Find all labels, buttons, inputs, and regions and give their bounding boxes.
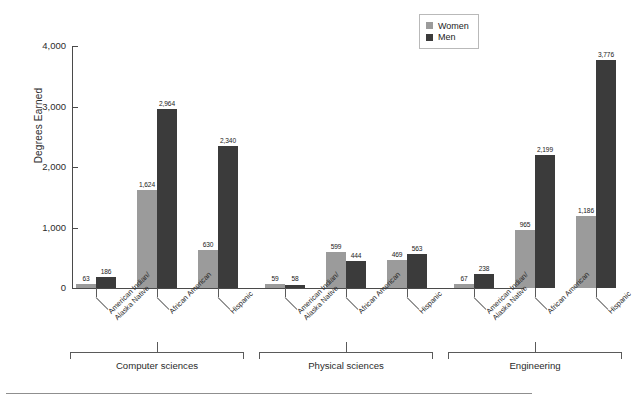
bar-men (596, 60, 616, 288)
category-label: Hispanic (418, 290, 444, 316)
category-leader-stub (96, 288, 97, 297)
bar-value-label: 2,964 (154, 100, 180, 107)
y-tick-label: 1,000 (20, 222, 66, 233)
y-tick (72, 288, 78, 289)
category-label-line: Hispanic (607, 290, 633, 316)
legend-label-men: Men (438, 32, 456, 42)
plot-area: 631861,6242,9646302,34059585994444695636… (72, 46, 524, 288)
bar-value-label: 58 (282, 275, 308, 282)
footer-caption-cropped (232, 395, 532, 401)
legend-label-women: Women (438, 21, 469, 31)
category-leader-stub (535, 288, 536, 297)
bottom-divider (6, 393, 532, 394)
bar-men (346, 261, 366, 288)
y-axis-title: Degrees Earned (33, 36, 44, 216)
category-label-line: Hispanic (229, 290, 255, 316)
y-tick-label: 2,000 (20, 161, 66, 172)
legend-swatch-men-icon (426, 34, 433, 41)
group-label: Physical sciences (266, 360, 426, 371)
bar-men (285, 285, 305, 289)
legend-item-women: Women (426, 21, 469, 31)
category-label: Hispanic (607, 290, 633, 316)
bar-men (157, 109, 177, 288)
bar-men (407, 254, 427, 288)
category-leader-stub (157, 288, 158, 297)
group-label: Computer sciences (77, 360, 237, 371)
bar-value-label: 444 (343, 252, 369, 259)
bar-men (535, 155, 555, 288)
category-leader-stub (596, 288, 597, 297)
bar-value-label: 238 (471, 265, 497, 272)
category-leader-stub (346, 288, 347, 297)
bar-value-label: 3,776 (593, 51, 619, 58)
legend: Women Men (419, 14, 479, 49)
category-leader-stub (218, 288, 219, 297)
y-tick-label: 0 (20, 282, 66, 293)
bar-men (218, 146, 238, 288)
y-tick-label: 3,000 (20, 101, 66, 112)
bar-women (454, 284, 474, 288)
group-label: Engineering (455, 360, 615, 371)
category-label-line: Hispanic (418, 290, 444, 316)
category-label: Hispanic (229, 290, 255, 316)
bar-value-label: 186 (93, 268, 119, 275)
bar-value-label: 563 (404, 245, 430, 252)
bar-value-label: 2,340 (215, 137, 241, 144)
bar-value-label: 2,199 (532, 146, 558, 153)
bar-men (474, 274, 494, 288)
category-leader-stub (474, 288, 475, 297)
bar-value-label: 599 (323, 243, 349, 250)
bar-women (76, 284, 96, 288)
category-leader-stub (285, 288, 286, 297)
bar-women (265, 284, 285, 288)
legend-swatch-women-icon (426, 22, 433, 29)
bar-men (96, 277, 116, 288)
legend-item-men: Men (426, 32, 469, 42)
y-tick-label: 4,000 (20, 40, 66, 51)
category-leader-stub (407, 288, 408, 297)
